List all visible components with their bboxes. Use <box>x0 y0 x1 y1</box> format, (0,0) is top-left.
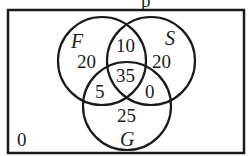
venn-diagram: p F S G 20 10 20 35 5 0 25 0 <box>0 0 251 156</box>
region-f-s-g: 35 <box>116 65 135 86</box>
region-f-and-s: 10 <box>116 35 135 56</box>
region-f-only: 20 <box>77 51 96 72</box>
region-outside: 0 <box>17 129 27 150</box>
set-g-label: G <box>120 128 135 150</box>
region-s-and-g: 0 <box>145 81 155 102</box>
set-s-label: S <box>165 27 175 49</box>
set-f-label: F <box>70 30 84 52</box>
region-s-only: 20 <box>152 51 171 72</box>
region-g-only: 25 <box>117 105 136 126</box>
region-f-and-g: 5 <box>95 81 105 102</box>
